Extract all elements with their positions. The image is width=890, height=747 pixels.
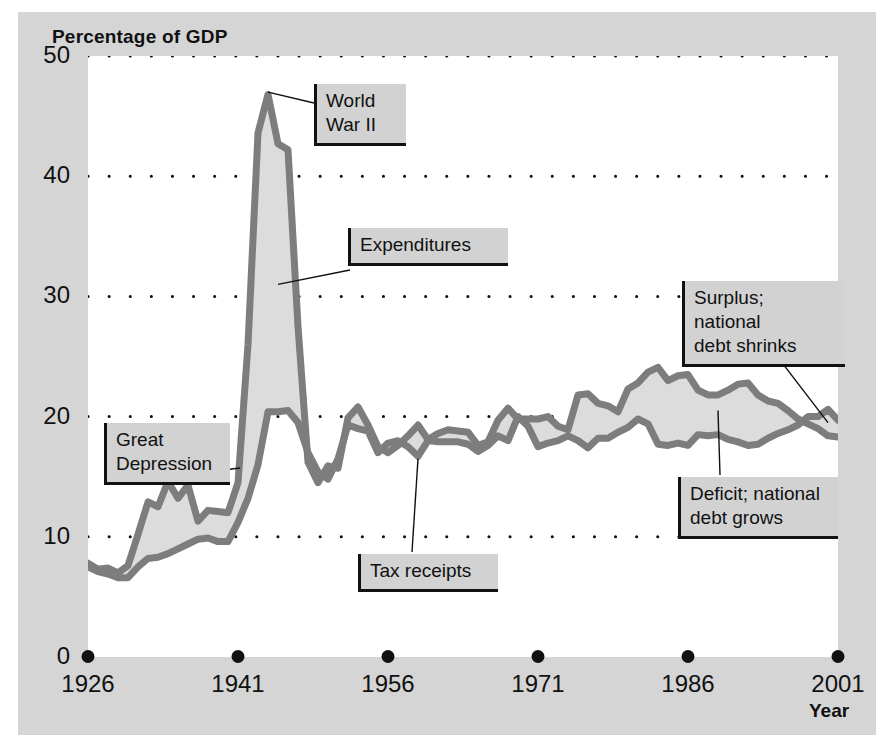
annotation-world-war-2: World War II (314, 84, 406, 146)
y-tick-label-0: 0 (10, 644, 70, 668)
y-tick-label-20: 20 (10, 404, 70, 428)
figure-root: Percentage of GDP 01020304050 1926194119… (0, 0, 890, 747)
y-tick-label-10: 10 (10, 524, 70, 548)
x-tick-label-2001: 2001 (811, 672, 864, 696)
x-tick-label-1986: 1986 (661, 672, 714, 696)
x-tick-marker-1941 (232, 650, 245, 663)
annotation-surplus: Surplus; national debt shrinks (682, 281, 845, 367)
annotation-tax-receipts: Tax receipts (358, 554, 498, 592)
x-tick-label-1956: 1956 (361, 672, 414, 696)
x-tick-marker-1926 (82, 650, 95, 663)
y-tick-label-30: 30 (10, 283, 70, 307)
x-tick-label-1926: 1926 (61, 672, 114, 696)
x-tick-marker-1971 (532, 650, 545, 663)
annotation-deficit: Deficit; national debt grows (678, 477, 838, 539)
y-tick-label-40: 40 (10, 163, 70, 187)
x-tick-label-1941: 1941 (211, 672, 264, 696)
y-axis-title: Percentage of GDP (52, 26, 228, 48)
y-tick-label-50: 50 (10, 43, 70, 67)
annotation-great-depression: Great Depression (104, 423, 230, 485)
x-tick-marker-2001 (832, 650, 845, 663)
x-tick-label-1971: 1971 (511, 672, 564, 696)
x-tick-marker-1986 (682, 650, 695, 663)
x-tick-marker-1956 (382, 650, 395, 663)
x-axis-title: Year (809, 700, 849, 722)
annotation-expenditures: Expenditures (348, 228, 508, 266)
